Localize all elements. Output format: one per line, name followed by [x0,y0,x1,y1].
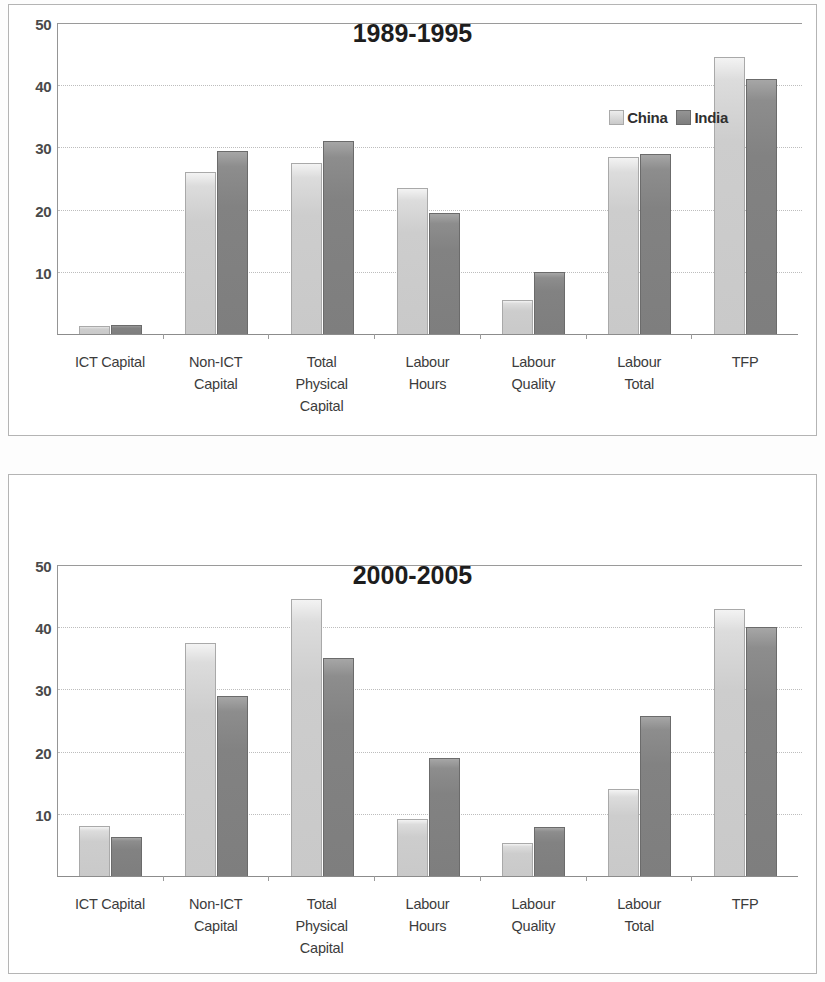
bar-china[interactable] [79,826,110,876]
x-axis-labels: ICT CapitalNon-ICTCapitalTotalPhysicalCa… [57,893,798,959]
x-axis-label-line: ICT Capital [57,351,163,373]
x-axis-label-line: Capital [163,915,269,937]
legend-label-india: India [694,109,728,126]
bar-group [269,23,375,334]
bar-china[interactable] [185,172,216,334]
x-axis-label: TFP [692,893,798,959]
chart-panel-2000-2005: 2000-2005 50403020100 China India ICT Ca… [8,474,817,974]
x-axis-label-line: Quality [480,373,586,395]
y-axis-tick-label: 10 [35,264,51,281]
x-axis-label-line: Non-ICT [163,893,269,915]
x-axis-label-line: Total [269,893,375,915]
bar-group [375,23,481,334]
bar-group [692,565,798,876]
x-axis-label-line: Labour [375,351,481,373]
x-axis-label-line: TFP [692,351,798,373]
bar-group [58,565,164,876]
x-axis-label-line: TFP [692,893,798,915]
legend-label-china: China [627,109,667,126]
bar-chart-1: 1989-1995 50403020100 China India ICT Ca… [9,5,816,435]
x-axis-label: LabourQuality [480,893,586,959]
bar-groups [58,565,798,876]
x-axis-label-line: Labour [375,893,481,915]
legend-item-india: India [676,109,728,126]
x-axis-label-line: Total [586,373,692,395]
bar-china[interactable] [185,643,216,876]
bar-china[interactable] [397,819,428,876]
bar-india[interactable] [746,79,777,334]
bar-india[interactable] [217,696,248,876]
y-axis-tick-label: 50 [35,558,51,575]
bar-india[interactable] [534,827,565,876]
x-axis-label-line: Labour [480,351,586,373]
x-axis-label-line: Labour [480,893,586,915]
x-axis-label: LabourTotal [586,351,692,417]
x-axis-label-line: Total [269,351,375,373]
bar-group [58,23,164,334]
bar-group [481,23,587,334]
legend-swatch-china-icon [609,110,624,125]
x-axis-label: LabourHours [375,351,481,417]
bar-group [587,23,693,334]
bar-chart-2: 2000-2005 50403020100 China India ICT Ca… [9,475,816,973]
bar-india[interactable] [111,837,142,876]
x-axis-label-line: Physical [269,373,375,395]
legend-item-china: China [609,109,667,126]
x-axis-label: TotalPhysicalCapital [269,893,375,959]
bar-india[interactable] [534,272,565,334]
bar-group [164,23,270,334]
bar-india[interactable] [429,758,460,876]
legend-swatch-india-icon [676,110,691,125]
x-axis-label-line: Labour [586,893,692,915]
plot-area: 50403020100 [57,23,798,335]
x-axis-label-line: Quality [480,915,586,937]
x-axis-label: TFP [692,351,798,417]
bar-china[interactable] [291,163,322,334]
y-axis-tick-label: 10 [35,806,51,823]
bar-china[interactable] [291,599,322,876]
y-axis-tick-label: 50 [35,16,51,33]
y-axis-tick-label: 30 [35,140,51,157]
x-axis-label: Non-ICTCapital [163,893,269,959]
bar-groups [58,23,798,334]
bar-china[interactable] [397,188,428,334]
bar-group [692,23,798,334]
x-axis-label: ICT Capital [57,893,163,959]
bar-india[interactable] [640,716,671,876]
bar-india[interactable] [323,658,354,876]
x-axis-label-line: ICT Capital [57,893,163,915]
bar-china[interactable] [502,300,533,334]
x-axis-label-line: Total [586,915,692,937]
bar-china[interactable] [79,326,110,334]
bar-group [269,565,375,876]
bar-india[interactable] [111,325,142,334]
bar-china[interactable] [714,609,745,876]
bar-group [375,565,481,876]
y-axis-tick-label: 20 [35,744,51,761]
x-axis-label: LabourQuality [480,351,586,417]
x-axis-label-line: Capital [269,395,375,417]
chart-legend: China India [609,109,728,126]
x-axis-label-line: Labour [586,351,692,373]
x-axis-label-line: Capital [269,937,375,959]
bar-india[interactable] [217,151,248,334]
bar-china[interactable] [714,57,745,334]
bar-china[interactable] [608,789,639,876]
y-axis-tick-label: 20 [35,202,51,219]
bar-india[interactable] [640,154,671,334]
bar-india[interactable] [323,141,354,334]
x-axis-label-line: Physical [269,915,375,937]
bar-group [481,565,587,876]
bar-india[interactable] [746,627,777,876]
y-axis-tick-label: 30 [35,682,51,699]
y-axis-tick-label: 40 [35,620,51,637]
chart-panel-1989-1995: 1989-1995 50403020100 China India ICT Ca… [8,4,817,436]
chart-page: 1989-1995 50403020100 China India ICT Ca… [0,0,825,982]
bar-india[interactable] [429,213,460,334]
x-axis-label: TotalPhysicalCapital [269,351,375,417]
x-axis-label-line: Hours [375,373,481,395]
bar-china[interactable] [608,157,639,334]
bar-group [164,565,270,876]
x-axis-label-line: Hours [375,915,481,937]
bar-china[interactable] [502,843,533,876]
